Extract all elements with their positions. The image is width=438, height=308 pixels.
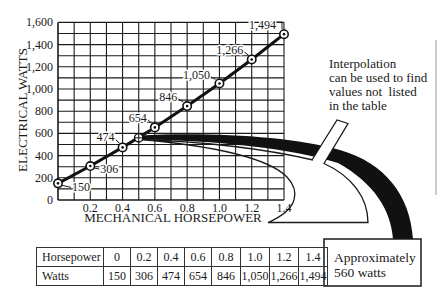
- data-label: 1,050: [183, 68, 210, 82]
- table-cell: 1,494: [299, 267, 328, 286]
- data-label: 150: [72, 180, 90, 194]
- data-point-center: [154, 126, 157, 129]
- table-cell: 306: [131, 267, 158, 286]
- table-cell: 0.2: [131, 248, 158, 267]
- grid: [58, 22, 284, 200]
- table-cell: 474: [158, 267, 185, 286]
- table-row-header: Watts: [37, 267, 104, 286]
- table-cell: 0: [104, 248, 131, 267]
- y-tick-label: 1,400: [26, 38, 53, 52]
- y-tick-label: 200: [35, 171, 53, 185]
- y-axis-title: ELECTRICAL WATTS: [15, 48, 30, 172]
- y-tick-label: 800: [35, 104, 53, 118]
- data-label: 1,494: [249, 18, 276, 32]
- data-point-center: [121, 146, 124, 149]
- leader-line: [243, 51, 249, 56]
- data-label: 654: [129, 111, 147, 125]
- data-point-center: [57, 182, 60, 185]
- data-point-center: [218, 82, 221, 85]
- data-label: 474: [97, 130, 115, 144]
- leader-line: [115, 138, 120, 143]
- table-row-header: Horsepower: [37, 248, 104, 267]
- table-row-horsepower: Horsepower 0 0.2 0.4 0.6 0.8 1.0 1.2 1.4: [37, 248, 328, 267]
- table-cell: 654: [185, 267, 212, 286]
- leader-line: [62, 185, 71, 187]
- data-point-center: [186, 105, 189, 108]
- table-cell: 150: [104, 267, 131, 286]
- y-tick-label: 1,200: [26, 60, 53, 74]
- y-tick-label: 600: [35, 126, 53, 140]
- result-box-line-1: Approximately: [334, 250, 416, 265]
- leader-line: [94, 168, 99, 169]
- data-point-center: [89, 165, 92, 168]
- table-cell: 1.4: [299, 248, 328, 267]
- table-cell: 0.6: [185, 248, 212, 267]
- table-row-watts: Watts 150 306 474 654 846 1,050 1,266 1,…: [37, 267, 328, 286]
- y-tick-label: 400: [35, 149, 53, 163]
- table-cell: 1.2: [270, 248, 299, 267]
- callout-line-2: can be used to find: [329, 70, 428, 85]
- y-tick-label: 1,000: [26, 82, 53, 96]
- table-cell: 0.8: [212, 248, 241, 267]
- horsepower-watts-table: Horsepower 0 0.2 0.4 0.6 0.8 1.0 1.2 1.4…: [36, 247, 328, 286]
- leader-line: [276, 22, 282, 29]
- callout-line-4: in the table: [329, 98, 387, 113]
- x-axis-title: MECHANICAL HORSEPOWER: [84, 210, 262, 225]
- table-cell: 1,266: [270, 267, 299, 286]
- data-label: 1,266: [216, 43, 243, 57]
- callout-line-1: Interpolation: [329, 56, 397, 71]
- data-point-center: [283, 33, 286, 36]
- data-point-center: [250, 58, 253, 61]
- y-tick-label: 1,600: [26, 15, 53, 29]
- result-box-line-2: 560 watts: [334, 265, 386, 280]
- table-cell: 0.4: [158, 248, 185, 267]
- table-cell: 1,050: [241, 267, 270, 286]
- y-tick-label: 0: [47, 193, 53, 207]
- table-cell: 846: [212, 267, 241, 286]
- data-label: 846: [159, 90, 177, 104]
- table-cell: 1.0: [241, 248, 270, 267]
- data-label: 306: [100, 162, 118, 176]
- callout-line-3: values not listed: [329, 84, 417, 99]
